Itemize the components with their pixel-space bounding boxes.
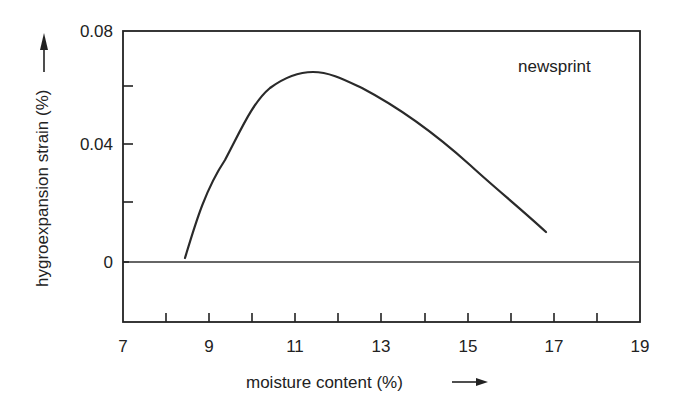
series-annotation: newsprint (518, 57, 591, 76)
y-axis-title: hygroexpansion strain (%) (33, 90, 52, 287)
x-tick-label: 9 (204, 337, 213, 356)
x-tick-label: 15 (459, 337, 478, 356)
x-tick-label: 11 (286, 337, 304, 356)
chart-canvas: 0.08 0.04 0 7 9 11 13 15 17 19 newsprint… (0, 0, 679, 405)
x-axis-arrow-icon (452, 378, 488, 386)
y-tick-label: 0.04 (80, 135, 113, 154)
x-axis-title: moisture content (%) (246, 373, 403, 392)
x-tick-label: 7 (118, 337, 127, 356)
y-axis-ticks (123, 86, 133, 262)
x-tick-label: 17 (545, 337, 564, 356)
newsprint-curve (185, 72, 546, 258)
x-tick-label: 13 (372, 337, 391, 356)
x-tick-label: 19 (631, 337, 650, 356)
y-axis-arrow-icon (40, 33, 48, 72)
x-axis-ticks (166, 313, 597, 322)
y-tick-label: 0.08 (80, 22, 113, 41)
y-tick-label: 0 (104, 253, 113, 272)
